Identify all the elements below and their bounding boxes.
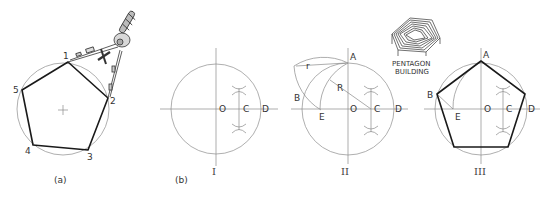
- vertex-label-3: 3: [87, 152, 93, 162]
- point-label-d: D: [528, 104, 535, 114]
- vertex-label-5: 5: [13, 85, 19, 95]
- point-label-a: A: [350, 52, 357, 62]
- point-label-d: D: [262, 104, 269, 114]
- point-label-b: B: [294, 93, 300, 103]
- radius-label-R: R: [337, 83, 343, 93]
- point-label-e: E: [319, 112, 325, 122]
- point-label-c: C: [506, 104, 512, 114]
- point-label-c: C: [374, 104, 380, 114]
- vertex-label-1: 1: [63, 51, 69, 61]
- inset-label-line1: PENTAGON: [392, 60, 430, 68]
- point-label-o: O: [219, 104, 226, 114]
- pentagon-construction-figure: 1 2 3 4 5 (a) (b): [0, 0, 545, 198]
- step-1: O C D I: [160, 48, 278, 177]
- inset-label-line2: BUILDING: [395, 68, 429, 76]
- step-numeral-1: I: [212, 166, 216, 177]
- point-label-e: E: [455, 112, 461, 122]
- vertex-label-2: 2: [110, 96, 116, 106]
- step-3: A B O C D E III: [424, 48, 540, 177]
- radius-label-r: r: [306, 61, 310, 71]
- pentagon-a: [22, 62, 108, 150]
- point-label-a: A: [483, 50, 490, 60]
- radius-r-line: [296, 63, 346, 66]
- point-label-b: B: [427, 90, 433, 100]
- pentagon-building-icon: [392, 18, 440, 56]
- point-label-c: C: [243, 104, 249, 114]
- caption-b: (b): [175, 175, 188, 185]
- vertex-label-4: 4: [25, 146, 31, 156]
- step-numeral-2: II: [341, 166, 349, 177]
- center-cross-icon: [58, 105, 68, 115]
- point-label-d: D: [395, 104, 402, 114]
- step-2: A B O C D E R r II: [291, 48, 408, 177]
- point-label-o: O: [350, 104, 357, 114]
- panel-a: 1 2 3 4 5 (a): [13, 10, 136, 185]
- point-label-o: O: [484, 104, 491, 114]
- step-numeral-3: III: [474, 166, 486, 177]
- caption-a: (a): [54, 175, 67, 185]
